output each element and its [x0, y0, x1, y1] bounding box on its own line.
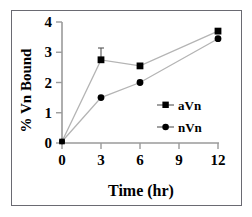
- figure-container: 0 1 2 3 4 0 3 6 9 12 % Vn Bound Time (hr…: [0, 0, 252, 217]
- x-tick-label-12: 12: [207, 153, 229, 168]
- y-tick-label-4: 4: [34, 15, 52, 30]
- legend-label-nVn: nVn: [178, 120, 202, 136]
- data-point-nVn: [137, 79, 144, 86]
- x-tick-label-6: 6: [129, 153, 151, 168]
- data-point-nVn: [98, 94, 105, 101]
- x-tick-label-9: 9: [168, 153, 190, 168]
- data-point-aVn: [215, 28, 222, 35]
- y-tick-label-3: 3: [34, 45, 52, 60]
- x-axis-label: Time (hr): [46, 182, 236, 200]
- data-point-aVn: [98, 56, 105, 63]
- y-tick-label-0: 0: [34, 136, 52, 151]
- x-tick-label-3: 3: [90, 153, 112, 168]
- data-point-nVn: [59, 139, 65, 145]
- square-marker-icon: [157, 102, 174, 108]
- circle-marker-icon: [157, 124, 174, 131]
- data-point-aVn: [137, 63, 144, 70]
- y-axis-label: % Vn Bound: [18, 31, 35, 151]
- y-tick-label-2: 2: [34, 76, 52, 91]
- y-tick-label-1: 1: [34, 106, 52, 121]
- x-tick-label-0: 0: [51, 153, 73, 168]
- data-point-nVn: [215, 35, 222, 42]
- legend-label-aVn: aVn: [178, 98, 201, 114]
